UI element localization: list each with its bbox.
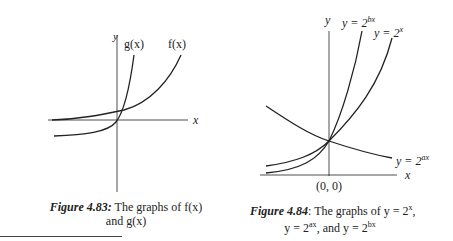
g-label: g(x) [124, 38, 144, 50]
g-curve [54, 55, 134, 136]
footnote-rule [0, 236, 122, 237]
figure-4-84-caption: Figure 4.84: The graphs of y = 2x, y = 2… [250, 201, 410, 235]
figure-4-83-plot [48, 35, 188, 192]
label-2-bx: y = 2bx [342, 14, 375, 29]
f-label: f(x) [168, 38, 186, 50]
origin-label: (0, 0) [316, 180, 342, 192]
x-axis-label: x [193, 114, 198, 126]
label-2-x: y = 2x [374, 24, 403, 39]
figure-4-84-plot [260, 31, 397, 176]
x-axis-label-right: x [405, 169, 410, 181]
figure-4-83-caption: Figure 4.83: The graphs of f(x) and g(x) [46, 200, 206, 228]
y-axis-label-right: y [325, 14, 330, 26]
y-axis-label: y [113, 30, 118, 42]
f-curve [52, 55, 181, 120]
label-2-ax: y = 2ax [396, 152, 429, 167]
